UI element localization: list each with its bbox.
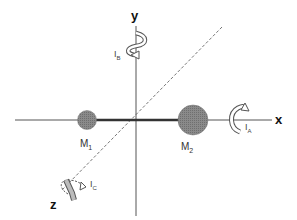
- inertia-a-subscript: A: [248, 128, 252, 134]
- rotation-arrow-y-icon: [128, 33, 145, 59]
- mass-m2: [178, 105, 208, 135]
- rotation-arrow-z-icon: [61, 180, 86, 200]
- y-axis-label: y: [131, 9, 138, 22]
- z-axis-label: z: [50, 198, 57, 211]
- x-axis-label: x: [275, 113, 282, 126]
- inertia-c-subscript: C: [93, 185, 97, 191]
- inertia-b-subscript: B: [117, 55, 121, 61]
- mass-m1: [78, 111, 97, 130]
- mass-m2-subscript: 2: [189, 147, 193, 154]
- inertia-b-label: IB: [114, 50, 121, 61]
- inertia-a-label: IA: [245, 123, 252, 134]
- mass-m1-subscript: 1: [88, 144, 92, 151]
- rigid-rotor-diagram: [0, 0, 297, 220]
- inertia-c-label: IC: [90, 180, 97, 191]
- mass-m1-label: M1: [80, 139, 92, 151]
- mass-m2-label: M2: [181, 142, 193, 154]
